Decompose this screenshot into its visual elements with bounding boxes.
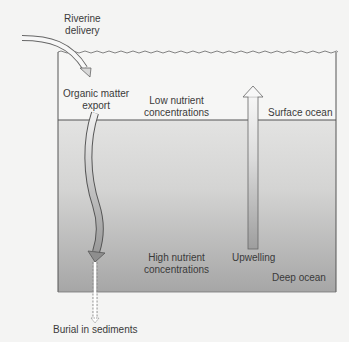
riverine-label-line1: Riverine [64, 13, 101, 25]
high-nutrient-label: High nutrient concentrations [144, 252, 209, 276]
low-label-line1: Low nutrient [144, 95, 209, 107]
organic-matter-export-label: Organic matter export [63, 88, 129, 112]
high-label-line1: High nutrient [144, 252, 209, 264]
low-nutrient-label: Low nutrient concentrations [144, 95, 209, 119]
burial-in-sediments-label: Burial in sediments [53, 324, 137, 336]
organic-label-line1: Organic matter [63, 88, 129, 100]
riverine-label-line2: delivery [64, 25, 101, 37]
low-label-line2: concentrations [144, 107, 209, 119]
riverine-delivery-label: Riverine delivery [64, 13, 101, 37]
upwelling-label: Upwelling [232, 252, 275, 264]
high-label-line2: concentrations [144, 264, 209, 276]
ocean-nutrient-diagram [0, 0, 349, 342]
deep-ocean-label: Deep ocean [272, 272, 326, 284]
organic-label-line2: export [63, 100, 129, 112]
surface-ocean-label: Surface ocean [268, 107, 333, 119]
